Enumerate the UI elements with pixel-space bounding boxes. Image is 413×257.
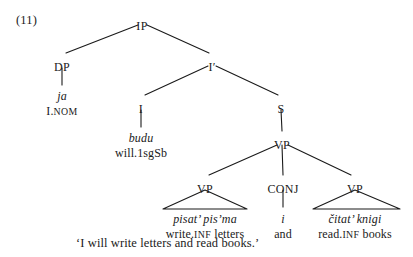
tree-branch-VPtop-VP2 xyxy=(288,145,351,175)
gloss-text: read. xyxy=(318,227,342,241)
example-number: (11) xyxy=(16,14,37,27)
tree-branch-IP-Ibar xyxy=(147,25,209,53)
tree-node-vp2: VP xyxy=(347,183,363,195)
tree-node-dp: DP xyxy=(54,61,70,73)
terminal-gloss-vp2: read.INF books xyxy=(318,228,391,240)
syntax-tree-figure: (11) IPDPI′ISVPVPCONJVP jaI.NOMbuduwill.… xyxy=(0,0,413,257)
tree-node-vp1: VP xyxy=(197,183,213,195)
tree-node-i: I xyxy=(139,103,143,115)
terminal-form-vp1: pisat’ pis’ma xyxy=(173,213,237,225)
terminal-form-i: i xyxy=(281,213,284,225)
terminal-form-vp2: čitat’ knigi xyxy=(329,213,382,225)
tree-node-s: S xyxy=(278,103,285,115)
gloss-text: books xyxy=(359,227,391,241)
free-translation: ‘I will write letters and read books.’ xyxy=(76,237,259,250)
terminal-form-budu: budu xyxy=(129,132,154,144)
gloss-smallcaps: NOM xyxy=(54,106,78,117)
tree-branch-Ibar-I xyxy=(145,66,208,95)
tree-branch-Ibar-S xyxy=(216,66,278,95)
tree-branch-IP-DP xyxy=(66,25,138,53)
terminal-gloss-budu: will.1sgSb xyxy=(115,147,167,159)
edge-layer xyxy=(62,25,351,207)
tree-node-vptop: VP xyxy=(274,139,290,151)
terminal-gloss-i: and xyxy=(274,228,292,240)
gloss-text: and xyxy=(274,227,292,241)
terminal-form-ja: ja xyxy=(57,90,67,102)
terminal-gloss-ja: I.NOM xyxy=(46,105,77,117)
gloss-text: will.1sgSb xyxy=(115,146,167,160)
tree-node-conj: CONJ xyxy=(267,183,298,195)
gloss-smallcaps: INF xyxy=(342,229,359,240)
tree-node-ip: IP xyxy=(136,20,147,32)
tree-node-ibar: I′ xyxy=(208,61,215,73)
tree-branch-VPtop-VP1 xyxy=(209,145,277,175)
